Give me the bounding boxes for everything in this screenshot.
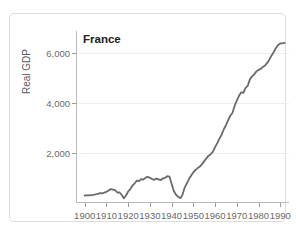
x-tick-label: 1970 [226,210,247,221]
x-tick-label: 1920 [118,210,139,221]
x-tick-label: 1980 [248,210,269,221]
y-axis-title: Real GDP [21,42,32,102]
clipped-caption-text [44,0,258,3]
x-tick-mark [106,203,107,207]
x-tick-mark [193,203,194,207]
x-tick-mark [128,203,129,207]
x-tick-mark [172,203,173,207]
y-tick-label: 6,000 [46,48,70,59]
x-tick-label: 1930 [139,210,160,221]
chart-figure: Real GDP 2,0004,0006,000 190019101920193… [0,0,296,229]
x-tick-mark [215,203,216,207]
x-tick-mark [150,203,151,207]
x-tick-mark [259,203,260,207]
x-tick-label: 1900 [74,210,95,221]
x-tick-label: 1990 [270,210,291,221]
x-tick-label: 1950 [183,210,204,221]
chart-card: Real GDP 2,0004,0006,000 190019101920193… [9,13,286,222]
x-tick-mark [280,203,281,207]
x-tick-label: 1960 [205,210,226,221]
series-line-france [76,31,289,203]
x-tick-mark [237,203,238,207]
y-tick-label: 4,000 [46,98,70,109]
plot-panel: 2,0004,0006,000 190019101920193019401950… [76,31,289,203]
x-tick-label: 1910 [96,210,117,221]
x-tick-mark [85,203,86,207]
y-tick-label: 2,000 [46,148,70,159]
panel-title-france: France [83,33,121,45]
x-tick-label: 1940 [161,210,182,221]
